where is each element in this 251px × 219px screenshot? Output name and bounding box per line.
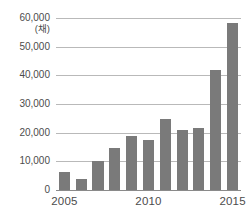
- bars-group: [56, 18, 241, 190]
- plot-area: [56, 18, 241, 190]
- y-axis-tick-label: 50,000: [0, 42, 50, 52]
- bar: [210, 70, 221, 190]
- bar: [126, 136, 137, 190]
- y-axis-tick-label: 0: [0, 185, 50, 195]
- x-axis-tick-label: 2005: [39, 195, 89, 207]
- bar: [76, 179, 87, 190]
- y-axis-tick-label: 10,000: [0, 156, 50, 166]
- bar: [193, 128, 204, 190]
- y-axis-tick-label: 60,000: [0, 13, 50, 23]
- y-axis-tick-label: 20,000: [0, 128, 50, 138]
- bar: [177, 130, 188, 190]
- bar: [160, 119, 171, 190]
- bar: [227, 23, 238, 190]
- bar: [143, 140, 154, 190]
- x-axis-line: [56, 190, 241, 191]
- x-axis-tick-label: 2015: [208, 195, 251, 207]
- y-axis-unit-label: (채): [0, 24, 50, 34]
- bar: [59, 172, 70, 190]
- bar-chart: (채) 010,00020,00030,00040,00050,00060,00…: [0, 0, 251, 219]
- y-axis-tick-label: 40,000: [0, 70, 50, 80]
- bar: [109, 148, 120, 190]
- y-axis-tick-label: 30,000: [0, 99, 50, 109]
- bar: [92, 161, 103, 190]
- x-axis-tick-label: 2010: [124, 195, 174, 207]
